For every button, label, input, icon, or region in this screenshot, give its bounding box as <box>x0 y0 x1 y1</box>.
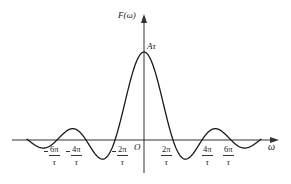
tick-denominator: τ <box>165 156 168 167</box>
tick-label-4pi: 4π τ <box>202 145 213 166</box>
minus-sign <box>112 151 116 152</box>
tick-label-neg-4pi: 4π τ <box>71 145 82 166</box>
tick-label-6pi: 6π τ <box>223 145 234 166</box>
tick-numerator: 6π <box>49 145 60 156</box>
origin-label: O <box>134 143 141 152</box>
minus-sign <box>66 151 70 152</box>
tick-numerator: 6π <box>223 145 234 156</box>
tick-denominator: τ <box>227 156 230 167</box>
tick-label-neg-2pi: 2π τ <box>117 145 128 166</box>
peak-label: Aτ <box>147 42 156 51</box>
tick-label-2pi: 2π τ <box>161 145 172 166</box>
y-axis-label: F(ω) <box>118 11 136 20</box>
sinc-plot <box>0 0 291 184</box>
tick-numerator: 4π <box>71 145 82 156</box>
tick-label-neg-6pi: 6π τ <box>49 145 60 166</box>
minus-sign <box>44 151 48 152</box>
x-axis-label: ω <box>268 142 275 152</box>
tick-denominator: τ <box>75 156 78 167</box>
tick-denominator: τ <box>121 156 124 167</box>
y-axis-arrow-icon <box>141 14 147 23</box>
tick-numerator: 2π <box>117 145 128 156</box>
tick-denominator: τ <box>53 156 56 167</box>
tick-numerator: 4π <box>202 145 213 156</box>
tick-denominator: τ <box>206 156 209 167</box>
tick-numerator: 2π <box>161 145 172 156</box>
